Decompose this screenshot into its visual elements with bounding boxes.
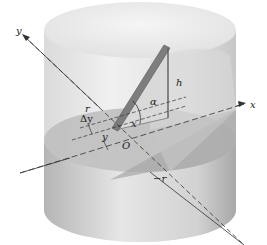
angle-label: α <box>150 97 157 107</box>
delta-y-text: Δy <box>80 113 93 124</box>
radius-positive-label: r <box>85 104 90 114</box>
height-label: h <box>176 78 182 88</box>
y-axis-label: y <box>16 26 22 36</box>
y-axis-arrowhead <box>22 34 30 41</box>
cylinder-wedge-diagram: y x h α Δy r x y O −r <box>0 0 267 245</box>
x-axis-label: x <box>250 100 256 110</box>
y-distance-label: y <box>102 132 108 142</box>
delta-y-label: Δy <box>80 114 93 124</box>
x-axis-arrowhead <box>238 101 246 107</box>
radius-negative-label: −r <box>153 174 166 184</box>
origin-label: O <box>122 141 130 151</box>
x-distance-label: x <box>131 119 137 129</box>
